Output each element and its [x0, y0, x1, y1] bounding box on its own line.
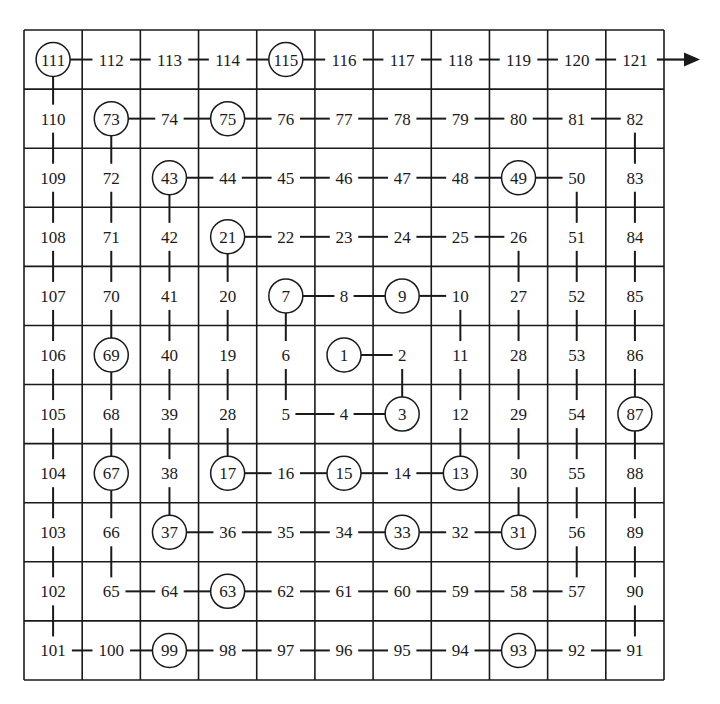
cell-number: 46 [336, 169, 353, 188]
cell-number: 105 [40, 405, 66, 424]
cell-number: 39 [161, 405, 178, 424]
grid-cell: 63 [211, 574, 245, 608]
grid-cell: 21 [211, 220, 245, 254]
grid-cell: 77 [336, 110, 354, 129]
cell-number: 41 [161, 287, 178, 306]
grid-cell: 46 [336, 169, 353, 188]
grid-cell: 47 [394, 169, 412, 188]
grid-cell: 56 [568, 523, 585, 542]
grid-cell: 49 [502, 161, 536, 195]
cell-number: 80 [510, 110, 527, 129]
cell-number: 92 [568, 641, 585, 660]
grid-cell: 106 [40, 346, 66, 365]
grid-cell: 1 [327, 338, 361, 372]
cell-number: 102 [40, 582, 66, 601]
cell-number: 79 [452, 110, 469, 129]
grid-cell: 64 [161, 582, 179, 601]
cell-number: 6 [282, 346, 291, 365]
grid-cell: 20 [219, 287, 236, 306]
grid-cell: 28 [510, 346, 527, 365]
grid-cell: 45 [277, 169, 294, 188]
grid-cell: 71 [103, 228, 120, 247]
grid-cell: 99 [152, 633, 186, 667]
cell-number: 93 [510, 641, 527, 660]
grid-cell: 6 [282, 346, 291, 365]
cell-number: 77 [336, 110, 354, 129]
cell-number: 44 [219, 169, 237, 188]
grid-cell: 114 [215, 51, 240, 70]
grid-cell: 24 [394, 228, 412, 247]
cell-number: 83 [626, 169, 643, 188]
cell-number: 87 [626, 405, 644, 424]
grid-cell: 50 [568, 169, 585, 188]
cell-number: 84 [626, 228, 644, 247]
grid-cell: 26 [510, 228, 527, 247]
grid-cell: 11 [452, 346, 468, 365]
grid-cell: 35 [277, 523, 294, 542]
cell-number: 94 [452, 641, 470, 660]
cell-number: 103 [40, 523, 66, 542]
cell-number: 26 [510, 228, 527, 247]
cell-number: 38 [161, 464, 178, 483]
grid-cell: 27 [510, 287, 528, 306]
cell-number: 28 [219, 405, 236, 424]
grid-cell: 44 [219, 169, 237, 188]
cell-number: 40 [161, 346, 178, 365]
grid-cell: 100 [99, 641, 125, 660]
grid-cell: 4 [340, 405, 349, 424]
grid-cell: 73 [94, 102, 128, 136]
cell-number: 89 [626, 523, 643, 542]
grid-cell: 67 [94, 456, 128, 490]
cell-number: 25 [452, 228, 469, 247]
grid-cell: 89 [626, 523, 643, 542]
grid-cell: 104 [40, 464, 66, 483]
cell-number: 76 [277, 110, 294, 129]
cell-number: 28 [510, 346, 527, 365]
grid-cell: 42 [161, 228, 178, 247]
cell-number: 107 [40, 287, 66, 306]
grid-cell: 110 [41, 110, 66, 129]
grid-cell: 98 [219, 641, 236, 660]
grid-cell: 36 [219, 523, 236, 542]
cell-number: 114 [215, 51, 240, 70]
cell-number: 29 [510, 405, 527, 424]
grid-cell: 86 [626, 346, 643, 365]
cell-number: 96 [336, 641, 353, 660]
cell-number: 70 [103, 287, 120, 306]
cell-number: 9 [398, 287, 407, 306]
grid-cell: 92 [568, 641, 585, 660]
cell-number: 121 [622, 51, 648, 70]
grid-cell: 66 [103, 523, 120, 542]
grid-cell: 121 [622, 51, 648, 70]
grid-cell: 43 [152, 161, 186, 195]
cell-number: 109 [40, 169, 66, 188]
grid-cell: 115 [269, 43, 303, 77]
cell-number: 100 [99, 641, 125, 660]
cell-number: 1 [340, 346, 349, 365]
cell-number: 82 [626, 110, 643, 129]
grid-cell: 85 [626, 287, 643, 306]
grid-cell: 109 [40, 169, 66, 188]
cell-number: 90 [626, 582, 643, 601]
grid-cell: 105 [40, 405, 66, 424]
grid-cell: 84 [626, 228, 644, 247]
grid-cell: 14 [394, 464, 412, 483]
grid-cell: 88 [626, 464, 643, 483]
cell-number: 111 [41, 51, 65, 70]
grid-cell: 119 [506, 51, 531, 70]
cell-number: 31 [510, 523, 527, 542]
grid-cell: 32 [452, 523, 469, 542]
cell-number: 45 [277, 169, 294, 188]
cell-number: 53 [568, 346, 585, 365]
grid-cell: 57 [568, 582, 586, 601]
grid-cell: 31 [502, 515, 536, 549]
cell-number: 58 [510, 582, 527, 601]
cell-number: 64 [161, 582, 179, 601]
grid-cell: 94 [452, 641, 470, 660]
grid-cell: 69 [94, 338, 128, 372]
grid-cell: 22 [277, 228, 294, 247]
grid-cell: 76 [277, 110, 294, 129]
cell-number: 91 [626, 641, 643, 660]
cell-number: 43 [161, 169, 178, 188]
grid-cell: 82 [626, 110, 643, 129]
